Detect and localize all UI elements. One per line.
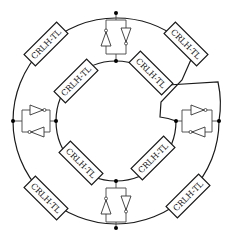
junction-node xyxy=(217,119,221,123)
amplifier-left-icon xyxy=(192,127,205,137)
amplifier-up-icon xyxy=(101,200,111,214)
junction-node xyxy=(174,119,178,123)
junction-node xyxy=(114,179,118,183)
tl-box-inner-bottom-left: CRLH-TL xyxy=(59,141,103,185)
junction-node xyxy=(114,226,118,230)
amplifier-left-icon xyxy=(31,127,44,137)
tl-box-inner-top-right: CRLH-TL xyxy=(129,51,173,95)
junction-node xyxy=(114,59,118,63)
amplifier-right-icon xyxy=(30,105,43,115)
junction-node xyxy=(54,119,58,123)
amplifier-pair-right xyxy=(174,105,221,137)
inner-to-outer-crossover-wire xyxy=(168,82,220,121)
tl-box-outer-bottom-right: CRLH-TL xyxy=(166,174,210,218)
amplifier-up-icon xyxy=(101,32,111,46)
amplifier-right-icon xyxy=(191,105,204,115)
crlh-ring-diagram: CRLH-TL CRLH-TL CRLH-TL CRLH-TL CRLH-TL … xyxy=(0,0,232,240)
junction-node xyxy=(114,11,118,15)
amplifier-pair-bottom xyxy=(101,179,131,230)
tl-box-outer-top-right: CRLH-TL xyxy=(164,22,208,66)
tl-box-inner-top-left: CRLH-TL xyxy=(54,59,98,103)
amplifier-down-icon xyxy=(121,28,131,42)
junction-node xyxy=(11,119,15,123)
tl-box-inner-bottom-right: CRLH-TL xyxy=(131,136,175,180)
tl-box-outer-bottom-left: CRLH-TL xyxy=(24,176,68,220)
tl-box-outer-top-left: CRLH-TL xyxy=(24,22,68,66)
amplifier-pair-left xyxy=(11,105,58,137)
amplifier-down-icon xyxy=(121,196,131,210)
